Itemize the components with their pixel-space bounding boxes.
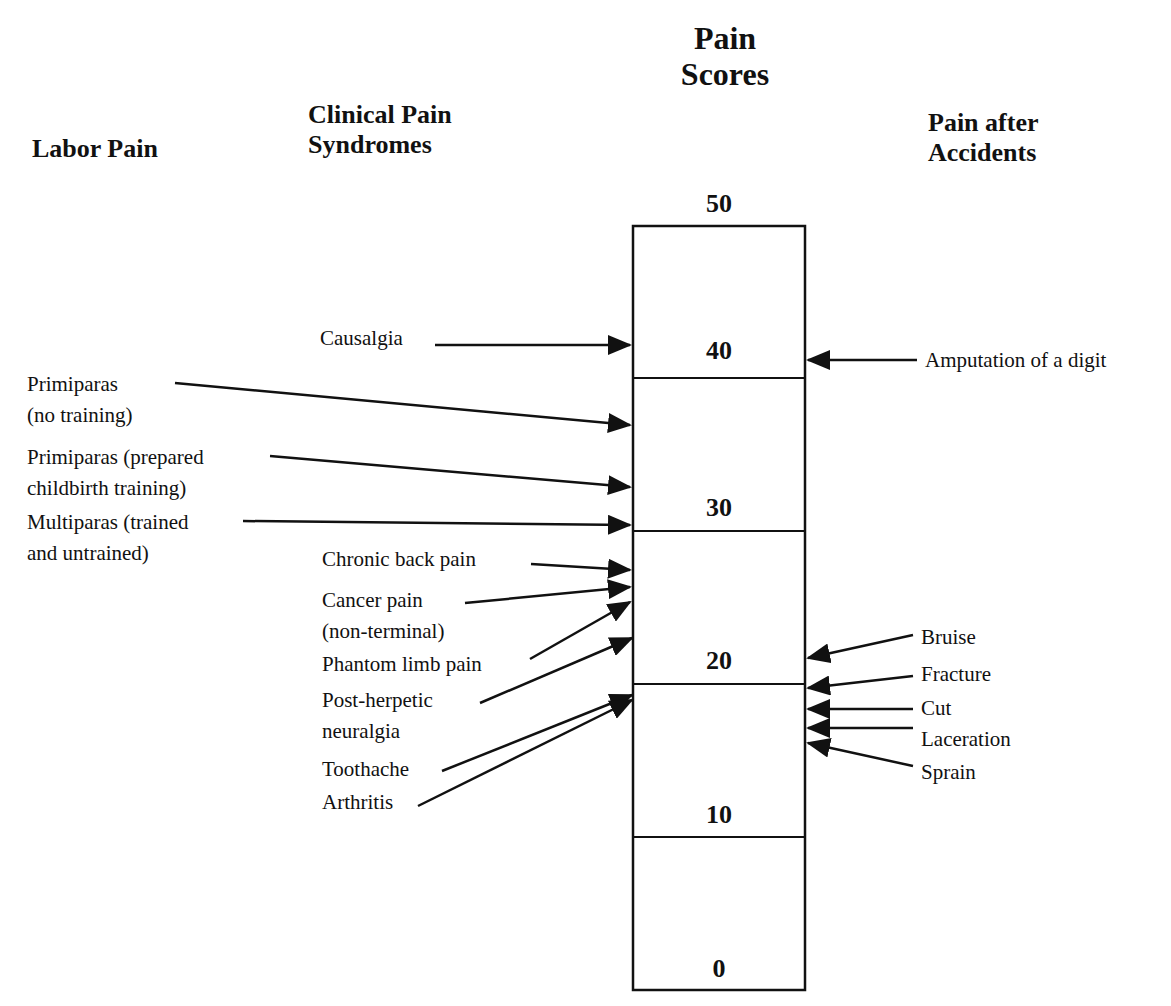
label-bruise: Bruise <box>921 622 976 653</box>
label-cut: Cut <box>921 693 951 724</box>
arrow-chronic-back-pain <box>531 564 630 570</box>
arrow-bruise <box>808 635 913 658</box>
accident-arrows <box>808 360 917 766</box>
label-primiparas-prepared: Primiparas (prepared childbirth training… <box>27 442 204 504</box>
tick-0: 0 <box>633 955 805 983</box>
arrow-primiparas-no-training <box>175 383 630 425</box>
arrow-phantom-limb-pain <box>530 602 630 659</box>
arrow-post-herpetic <box>480 638 632 703</box>
label-arthritis: Arthritis <box>322 787 393 818</box>
tick-30: 30 <box>633 494 805 522</box>
header-pain-after-accidents: Pain after Accidents <box>928 108 1038 168</box>
label-toothache: Toothache <box>322 754 409 785</box>
label-causalgia: Causalgia <box>320 323 403 354</box>
label-primiparas-no-training: Primiparas (no training) <box>27 369 133 431</box>
arrow-multiparas <box>243 521 630 525</box>
tick-50: 50 <box>633 190 805 218</box>
arrow-sprain <box>808 743 913 766</box>
label-amputation-of-a-digit: Amputation of a digit <box>925 345 1106 376</box>
arrow-arthritis <box>418 700 632 806</box>
tick-20: 20 <box>633 647 805 675</box>
label-laceration: Laceration <box>921 724 1011 755</box>
header-labor-pain: Labor Pain <box>32 134 158 164</box>
label-phantom-limb-pain: Phantom limb pain <box>322 649 482 680</box>
label-sprain: Sprain <box>921 757 976 788</box>
arrow-fracture <box>808 676 913 688</box>
arrow-toothache <box>442 695 632 771</box>
arrow-cancer-pain <box>465 587 630 603</box>
label-fracture: Fracture <box>921 659 991 690</box>
tick-10: 10 <box>633 801 805 829</box>
label-multiparas: Multiparas (trained and untrained) <box>27 507 189 569</box>
arrow-primiparas-prepared <box>270 456 630 487</box>
labor-arrows <box>175 383 630 525</box>
header-clinical-pain: Clinical Pain Syndromes <box>308 100 452 160</box>
header-pain-scores: Pain Scores <box>640 20 810 92</box>
label-chronic-back-pain: Chronic back pain <box>322 544 476 575</box>
tick-40: 40 <box>633 337 805 365</box>
label-post-herpetic-neuralgia: Post-herpetic neuralgia <box>322 685 433 747</box>
label-cancer-pain: Cancer pain (non-terminal) <box>322 585 444 647</box>
